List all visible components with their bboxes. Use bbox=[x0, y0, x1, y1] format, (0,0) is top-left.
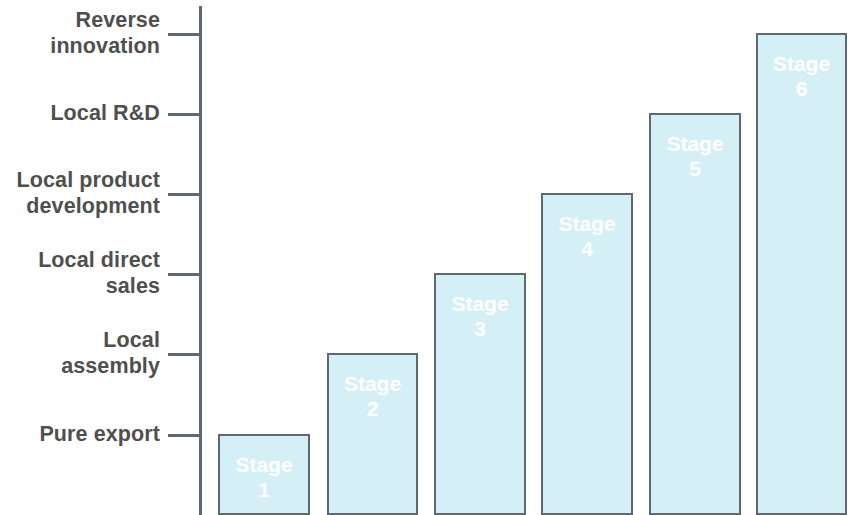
bar-label-stage-2: Stage 2 bbox=[329, 371, 416, 421]
bar-label-stage-1: Stage 1 bbox=[220, 452, 308, 502]
y-axis-label-reverse-innovation: Reverse innovation bbox=[0, 7, 160, 59]
bar-stage-4: Stage 4 bbox=[541, 193, 633, 515]
bar-label-stage-4: Stage 4 bbox=[543, 211, 631, 261]
bar-label-stage-6: Stage 6 bbox=[758, 51, 845, 101]
bar-stage-6: Stage 6 bbox=[756, 33, 847, 515]
y-axis-label-local-product-development: Local product development bbox=[0, 167, 160, 219]
y-axis-tick-pure-export bbox=[168, 434, 202, 437]
y-axis-tick-local-product-development bbox=[168, 193, 202, 196]
y-axis-label-local-assembly: Local assembly bbox=[0, 327, 160, 379]
y-axis-label-local-direct-sales: Local direct sales bbox=[0, 247, 160, 299]
bar-stage-1: Stage 1 bbox=[218, 434, 310, 515]
y-axis-tick-reverse-innovation bbox=[168, 33, 202, 36]
bar-label-stage-5: Stage 5 bbox=[651, 131, 739, 181]
bar-stage-5: Stage 5 bbox=[649, 113, 741, 515]
y-axis-label-local-rnd: Local R&D bbox=[0, 100, 160, 126]
y-axis-label-pure-export: Pure export bbox=[0, 421, 160, 447]
bar-stage-2: Stage 2 bbox=[327, 353, 418, 515]
localization-stages-bar-chart: Reverse innovation Local R&D Local produ… bbox=[0, 0, 862, 515]
y-axis-tick-local-rnd bbox=[168, 113, 202, 116]
y-axis-line bbox=[199, 6, 202, 515]
y-axis-tick-local-direct-sales bbox=[168, 273, 202, 276]
bar-stage-3: Stage 3 bbox=[434, 273, 526, 515]
y-axis-tick-local-assembly bbox=[168, 353, 202, 356]
bar-label-stage-3: Stage 3 bbox=[436, 291, 524, 341]
